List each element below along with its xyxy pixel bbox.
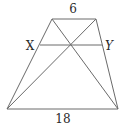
diagonal-top-right-to-bottom-left [7,19,96,109]
diagonal-top-left-to-bottom-right [52,19,118,109]
point-y-label: Y [105,39,114,53]
point-x-label: X [26,39,35,53]
bottom-base-label: 18 [55,112,70,125]
top-base-label: 6 [69,2,77,16]
trapezoid-diagram: 6 X Y 18 [0,0,120,125]
